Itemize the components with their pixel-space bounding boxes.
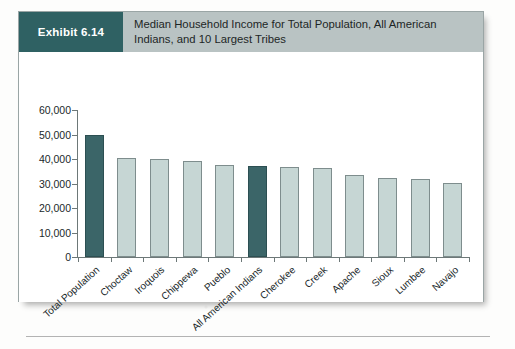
y-tick-mark [72,184,77,185]
y-tick-mark [72,208,77,209]
y-tick-label: 60,000 [39,104,71,116]
bar[interactable] [248,166,267,257]
y-tick-mark [72,233,77,234]
bar[interactable] [411,179,430,257]
bar-slot [339,110,372,257]
bar-slot [371,110,404,257]
y-tick-label: 20,000 [39,202,71,214]
bar[interactable] [345,175,364,257]
y-tick-label: 10,000 [39,227,71,239]
y-tick-mark [72,159,77,160]
exhibit-header: Exhibit 6.14 Median Household Income for… [19,12,483,52]
page-rule [26,336,490,337]
x-axis-labels: Total PopulationChoctawIroquoisChippewaP… [19,262,485,302]
y-tick-mark [72,257,77,258]
y-tick-mark [72,110,77,111]
bar-slot [143,110,176,257]
bar-slot [241,110,274,257]
exhibit-number-badge: Exhibit 6.14 [19,12,123,52]
exhibit-title: Median Household Income for Total Popula… [123,12,483,52]
exhibit-frame: Exhibit 6.14 Median Household Income for… [18,11,484,302]
bar[interactable] [85,135,104,257]
y-tick-label: 50,000 [39,129,71,141]
y-tick-label: 40,000 [39,153,71,165]
y-tick-mark [72,135,77,136]
bar-chart: 010,00020,00030,00040,00050,00060,000 To… [19,52,483,302]
bar-slot [404,110,437,257]
bar-slot [176,110,209,257]
y-tick-label: 30,000 [39,178,71,190]
bar-slot [436,110,469,257]
bar-slot [78,110,111,257]
